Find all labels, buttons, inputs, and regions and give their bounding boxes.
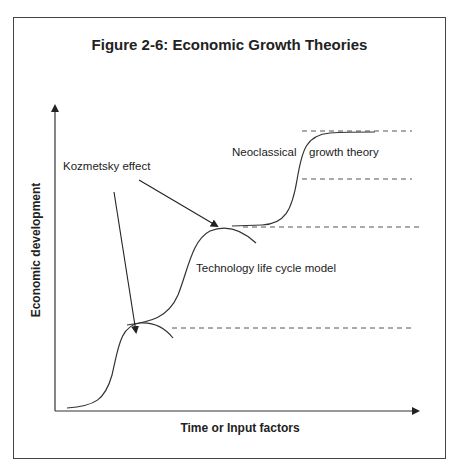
kozmetsky-effect-label: Kozmetsky effect (63, 160, 150, 172)
diagram-canvas (0, 0, 458, 470)
kozmetsky-arrow-2 (139, 180, 217, 226)
x-axis-label: Time or Input factors (140, 421, 340, 435)
neoclassical-label-right: growth theory (309, 146, 379, 158)
s-curve-2 (127, 228, 256, 325)
y-axis-label: Economic development (29, 183, 43, 318)
neoclassical-label-left: Neoclassical (232, 146, 297, 158)
technology-life-cycle-label: Technology life cycle model (196, 262, 336, 274)
figure: Figure 2-6: Economic Growth Theories Koz… (0, 0, 458, 470)
kozmetsky-arrow-1 (114, 192, 136, 332)
s-curve-1 (67, 323, 173, 408)
